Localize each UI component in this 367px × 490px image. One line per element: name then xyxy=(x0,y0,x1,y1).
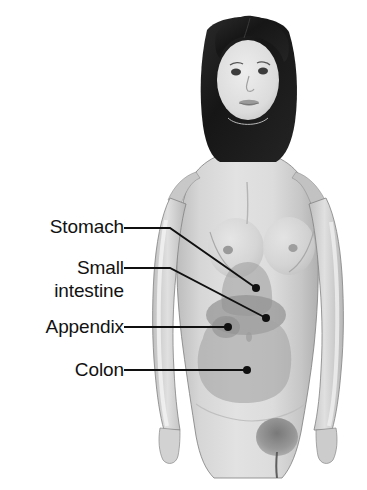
right-nipple xyxy=(288,244,297,252)
head xyxy=(201,16,297,162)
label-stomach-text: Stomach xyxy=(50,216,124,237)
left-nipple xyxy=(223,246,233,254)
label-small-intestine-text-line2: intestine xyxy=(54,279,124,302)
label-appendix: Appendix xyxy=(46,315,124,338)
label-appendix-text: Appendix xyxy=(46,316,124,337)
anatomical-figure xyxy=(0,0,367,490)
left-eye xyxy=(231,69,241,76)
right-eye xyxy=(258,68,268,75)
right-breast xyxy=(263,217,315,275)
anatomy-diagram-page: Stomach Small intestine Appendix Colon xyxy=(0,0,367,490)
sternum-line xyxy=(247,182,248,224)
leader-dot-appendix xyxy=(224,323,232,331)
label-small-intestine: Small intestine xyxy=(54,256,124,302)
label-stomach: Stomach xyxy=(50,215,124,238)
label-colon: Colon xyxy=(75,358,124,381)
leader-dot-small-intestine xyxy=(262,314,270,322)
label-small-intestine-text: Small xyxy=(77,257,124,278)
leader-dot-stomach xyxy=(252,284,260,292)
pubic-region xyxy=(256,418,298,456)
pubic-cleft xyxy=(276,452,277,478)
label-colon-text: Colon xyxy=(75,359,124,380)
leader-dot-colon xyxy=(243,366,251,374)
organ-colon xyxy=(198,316,292,403)
left-hand xyxy=(159,428,180,463)
right-hand xyxy=(316,428,337,463)
body-figure xyxy=(153,16,344,478)
